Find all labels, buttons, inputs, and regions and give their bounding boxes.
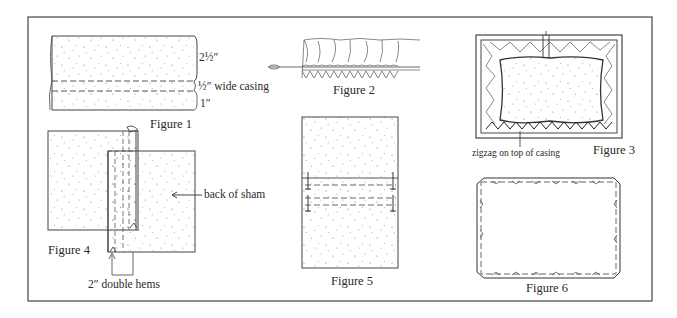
fig4-double-hems-annotation: 2″ double hems	[88, 279, 160, 291]
diagram-canvas	[0, 0, 677, 318]
figure-1-caption: Figure 1	[150, 118, 192, 131]
figure-2-caption: Figure 2	[333, 84, 375, 97]
figure-1-drawing	[49, 36, 197, 110]
figure-6-caption: Figure 6	[526, 282, 568, 295]
fig1-bottom-dimension: 1″	[200, 98, 211, 110]
figure-2-drawing	[268, 39, 420, 79]
fig4-back-of-sham-annotation: back of sham	[204, 189, 265, 201]
figure-5-caption: Figure 5	[331, 275, 373, 288]
fig3-zigzag-annotation: zigzag on top of casing	[472, 149, 560, 159]
fig1-top-dimension: 2½″	[199, 52, 218, 64]
figure-6-drawing	[477, 178, 620, 278]
figure-4-caption: Figure 4	[48, 244, 90, 257]
figure-5-drawing	[302, 117, 398, 268]
fig1-casing-dimension: ½″ wide casing	[198, 81, 269, 93]
figure-3-drawing	[476, 31, 622, 147]
figure-3-caption: Figure 3	[593, 144, 635, 157]
